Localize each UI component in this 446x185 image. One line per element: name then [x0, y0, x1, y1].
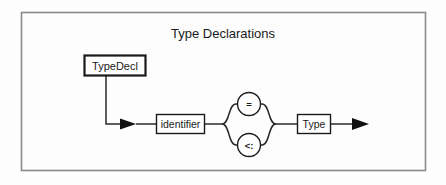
diagram-title: Type Declarations: [171, 26, 276, 41]
node-subtype-operator: <:: [238, 134, 261, 157]
identifier-label: identifier: [161, 118, 201, 130]
node-identifier: identifier: [157, 115, 205, 134]
syntax-diagram-figure: Type Declarations: [0, 0, 446, 185]
node-typedecl: TypeDecl: [85, 56, 146, 76]
typedecl-label: TypeDecl: [92, 60, 138, 72]
subtype-label: <:: [245, 140, 254, 151]
node-equals-operator: =: [238, 93, 261, 116]
equals-label: =: [246, 99, 252, 110]
diagram-canvas: Type Declarations: [0, 0, 446, 185]
node-type: Type: [298, 115, 331, 134]
type-label: Type: [303, 118, 326, 130]
